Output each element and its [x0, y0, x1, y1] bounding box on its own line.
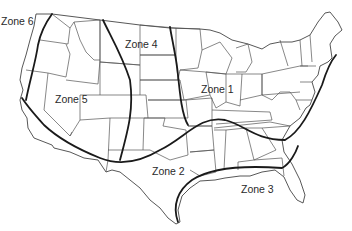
- us-zone-map: [0, 0, 352, 231]
- zone-5-boundary: [22, 55, 336, 162]
- zone-5-label: Zone 5: [55, 93, 88, 105]
- zone-6-label: Zone 6: [1, 15, 34, 27]
- zone-4-label: Zone 4: [125, 38, 158, 50]
- zone-4-east-boundary: [170, 27, 188, 125]
- zone-3-label: Zone 3: [241, 183, 274, 195]
- zone-2-label: Zone 2: [152, 165, 185, 177]
- zone-3-boundary: [176, 146, 298, 222]
- zone-1-label: Zone 1: [201, 83, 234, 95]
